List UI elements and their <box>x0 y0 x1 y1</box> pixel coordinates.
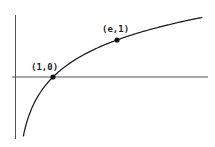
label-1-0: (1,0) <box>31 62 58 72</box>
point-e-1 <box>114 37 119 42</box>
label-e-1: (e,1) <box>102 24 129 34</box>
point-1-0 <box>50 74 55 79</box>
log-curve-diagram: (1,0) (e,1) <box>0 0 215 147</box>
